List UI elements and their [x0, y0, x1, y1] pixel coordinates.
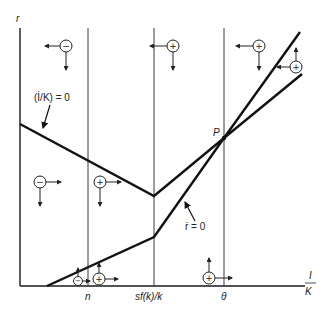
plus-sign: +	[96, 177, 104, 187]
x-axis-label-denominator: K	[305, 286, 313, 297]
minus-sign: −	[75, 277, 81, 285]
y-axis-label: r	[16, 13, 20, 24]
region-bottom-center-indicator: +	[93, 263, 118, 285]
plus-sign: +	[292, 62, 300, 72]
tick-theta: θ	[221, 291, 227, 302]
tick-sfk: sf(k)/k	[135, 291, 163, 302]
phase-diagram: P r I K n sf(k)/k θ (İ/K) = 0 ṙ = 0 − + …	[0, 0, 329, 314]
minus-sign: −	[36, 177, 44, 187]
plus-sign: +	[205, 273, 213, 283]
investment-curve-label: (İ/K) = 0	[34, 91, 70, 103]
interest-curve-pointer	[185, 202, 195, 221]
minus-sign: −	[62, 41, 70, 51]
region-middle-left-indicator: −	[34, 176, 61, 206]
region-middle-center-indicator: +	[94, 176, 121, 206]
equilibrium-point	[222, 136, 226, 140]
region-top-left-indicator: −	[45, 40, 72, 70]
plus-sign: +	[95, 274, 103, 284]
interest-curve-label: ṙ = 0	[185, 221, 206, 232]
region-top-right-indicator: +	[236, 40, 265, 70]
point-label: P	[213, 127, 220, 138]
x-axis-label-numerator: I	[309, 270, 312, 281]
region-bottom-right-indicator: +	[203, 258, 232, 284]
tick-n: n	[85, 291, 91, 302]
plus-sign: +	[169, 41, 177, 51]
plus-sign: +	[255, 41, 263, 51]
investment-curve-pointer	[43, 105, 50, 128]
